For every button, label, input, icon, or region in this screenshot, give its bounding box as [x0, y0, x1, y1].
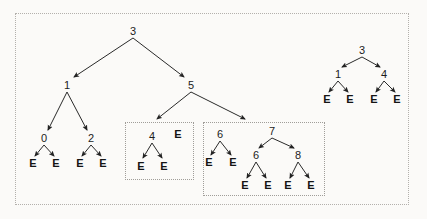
tree-leaf-node: E	[174, 129, 181, 140]
tree-leaf-node: E	[346, 94, 353, 105]
tree-leaf-node: E	[76, 158, 83, 169]
tree-diagram-canvas: 31502EEEE4EEE6EE768EEEE314EEEE	[0, 0, 427, 219]
tree-internal-node: 4	[149, 131, 155, 142]
tree-leaf-node: E	[393, 94, 400, 105]
tree-leaf-node: E	[323, 94, 330, 105]
tree-internal-node: 3	[359, 45, 365, 56]
tree-leaf-node: E	[229, 157, 236, 168]
tree-leaf-node: E	[370, 94, 377, 105]
tree-internal-node: 1	[64, 80, 70, 91]
tree-internal-node: 4	[381, 69, 387, 80]
tree-internal-node: 6	[253, 150, 259, 161]
tree-leaf-node: E	[160, 161, 167, 172]
tree-leaf-node: E	[29, 158, 36, 169]
tree-internal-node: 0	[41, 133, 47, 144]
tree-internal-node: 6	[217, 129, 223, 140]
tree-leaf-node: E	[307, 180, 314, 191]
tree-leaf-node: E	[205, 157, 212, 168]
tree-internal-node: 8	[295, 150, 301, 161]
tree-leaf-node: E	[52, 158, 59, 169]
tree-leaf-node: E	[241, 180, 248, 191]
tree-internal-node: 3	[130, 26, 136, 37]
tree-internal-node: 2	[88, 133, 94, 144]
tree-leaf-node: E	[264, 180, 271, 191]
tree-leaf-node: E	[99, 158, 106, 169]
tree-leaf-node: E	[137, 161, 144, 172]
tree-leaf-node: E	[284, 180, 291, 191]
tree-internal-node: 5	[188, 80, 194, 91]
tree-internal-node: 7	[269, 126, 275, 137]
tree-internal-node: 1	[335, 69, 341, 80]
